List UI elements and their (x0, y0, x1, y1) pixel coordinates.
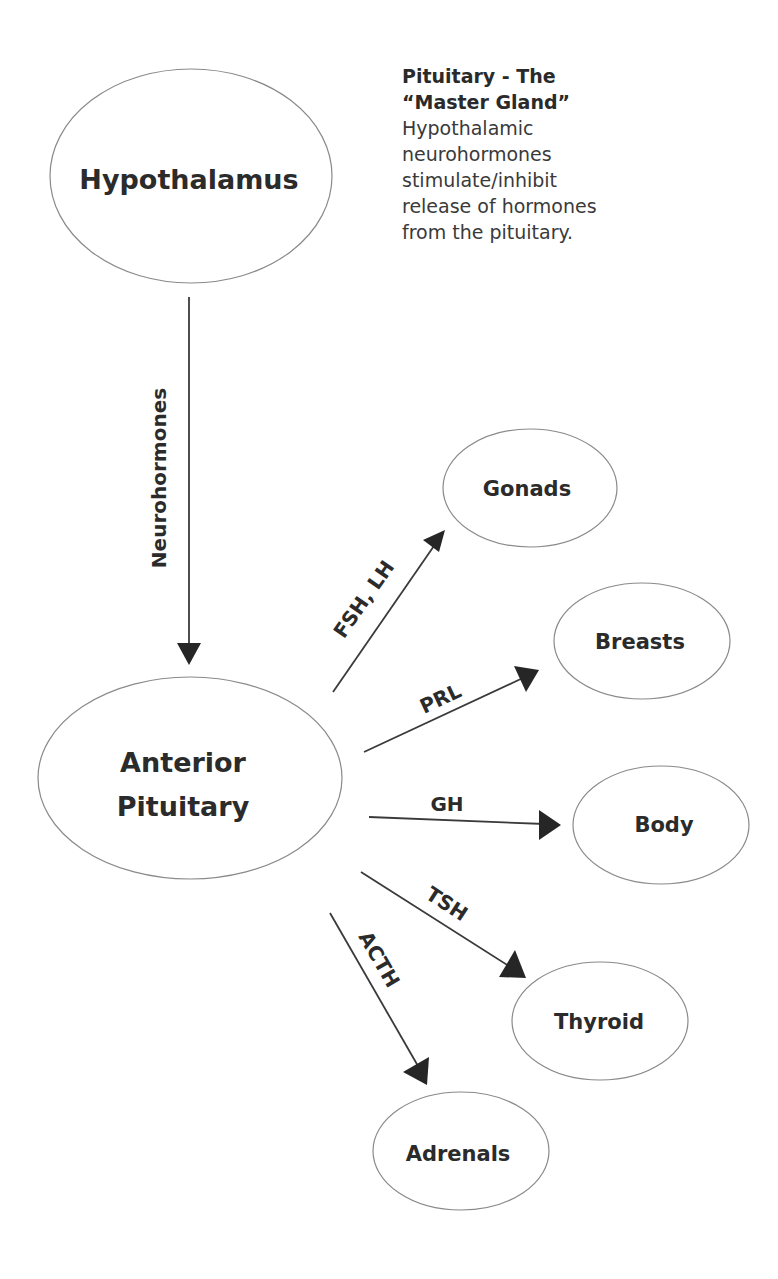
edge-neurohormones: Neurohormones (147, 297, 202, 665)
anterior-pituitary-ellipse (38, 677, 342, 879)
note-title-line-2: “Master Gland” (402, 89, 732, 115)
body-label: Body (634, 813, 693, 837)
note-body-line-1: Hypothalamic (402, 115, 732, 141)
node-breasts: Breasts (554, 583, 730, 699)
fsh-lh-label: FSH, LH (328, 556, 399, 643)
node-anterior-pituitary: Anterior Pituitary (38, 677, 342, 879)
acth-label: ACTH (354, 927, 405, 991)
edge-gh: GH (369, 792, 561, 841)
note-body-line-5: from the pituitary. (402, 219, 732, 245)
note-title-line-1: Pituitary - The (402, 63, 732, 89)
arrowhead-icon (499, 950, 526, 978)
node-adrenals: Adrenals (373, 1092, 549, 1210)
prl-label: PRL (416, 679, 465, 719)
edge-prl: PRL (364, 666, 539, 752)
node-body: Body (573, 766, 749, 884)
neurohormones-label: Neurohormones (147, 388, 171, 568)
arrowhead-icon (423, 530, 445, 552)
note-body-line-3: stimulate/inhibit (402, 167, 732, 193)
pituitary-note: Pituitary - The “Master Gland” Hypothala… (402, 63, 732, 245)
note-body-line-4: release of hormones (402, 193, 732, 219)
arrowhead-down-icon (177, 643, 201, 665)
node-hypothalamus: Hypothalamus (50, 69, 332, 283)
tsh-label: TSH (421, 881, 472, 926)
breasts-label: Breasts (595, 630, 685, 654)
edge-acth: ACTH (330, 913, 429, 1085)
node-gonads: Gonads (443, 429, 617, 547)
thyroid-label: Thyroid (554, 1010, 644, 1034)
hypothalamus-label: Hypothalamus (79, 164, 298, 195)
note-body-line-2: neurohormones (402, 141, 732, 167)
gh-arrow-line (369, 817, 545, 824)
gonads-label: Gonads (483, 477, 571, 501)
adrenals-label: Adrenals (406, 1142, 511, 1166)
gh-label: GH (430, 792, 463, 816)
arrowhead-icon (514, 666, 539, 692)
anterior-pituitary-label-line1: Anterior (120, 747, 246, 778)
arrowhead-right-icon (539, 810, 561, 840)
anterior-pituitary-label-line2: Pituitary (117, 791, 250, 822)
node-thyroid: Thyroid (512, 962, 688, 1080)
edge-fsh-lh: FSH, LH (328, 530, 445, 692)
